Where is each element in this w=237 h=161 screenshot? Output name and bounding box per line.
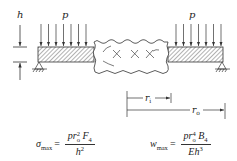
stress-symbol: σmax [36, 138, 52, 149]
equals-sign: = [170, 138, 176, 149]
load-arrows-left [41, 24, 86, 46]
load-label-left: p [62, 9, 69, 20]
plate-section-right [168, 47, 223, 62]
deflection-fraction: pr4o B4 Eh3 [181, 130, 211, 157]
equals-sign: = [54, 138, 60, 149]
plate-section-left [38, 47, 94, 62]
max-deflection-formula: wmax = pr4o B4 Eh3 [150, 130, 211, 157]
deflection-denominator: Eh3 [188, 145, 202, 157]
stress-numerator: pr2o F4 [65, 130, 95, 145]
stress-fraction: pr2o F4 h2 [65, 130, 95, 157]
load-arrows-right [176, 24, 221, 46]
support-right [215, 62, 230, 72]
max-stress-formula: σmax = pr2o F4 h2 [36, 130, 95, 157]
support-left [32, 62, 47, 72]
load-label-right: p [189, 9, 196, 20]
deflection-symbol: wmax [150, 138, 168, 149]
center-break-region [93, 40, 169, 74]
outer-radius-dimension [127, 103, 225, 119]
deflection-numerator: pr4o B4 [181, 130, 211, 145]
inner-radius-label: ri [145, 93, 151, 104]
thickness-label: h [17, 9, 23, 20]
thickness-dimension [13, 25, 27, 80]
outer-radius-label: ro [192, 105, 200, 116]
stress-denominator: h2 [76, 145, 84, 157]
